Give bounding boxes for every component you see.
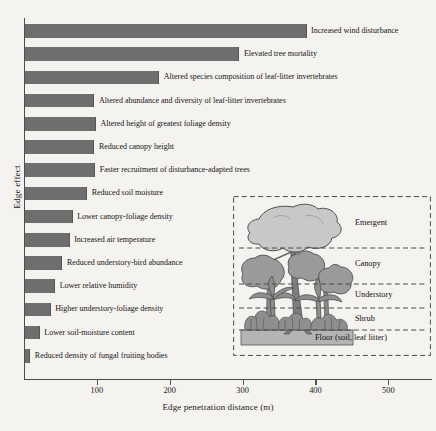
bar [25,233,70,247]
bar-row: Lower relative humidity [25,279,137,293]
x-tick-mark [170,380,171,385]
bar-row: Reduced canopy height [25,140,174,154]
x-tick-mark [315,380,316,385]
bar-row: Reduced understory-bird abundance [25,256,183,270]
edge-effect-bar-chart: Edge effect Increased wind disturbanceEl… [0,0,436,431]
bar [25,210,73,224]
bar-label: Reduced soil moisture [92,189,163,197]
bar-label: Elevated tree mortality [244,50,317,58]
x-tick-mark [97,380,98,385]
bar [25,256,62,270]
bar-row: Lower soil-moisture content [25,326,135,340]
bar [25,279,55,293]
bar-row: Higher understory-foliage density [25,302,163,316]
bar-row: Increased air temperature [25,233,155,247]
bar-row: Elevated tree mortality [25,47,317,61]
x-tick-label: 100 [91,386,104,395]
bar-label: Increased wind disturbance [311,27,398,35]
bar [25,303,51,317]
bar-row: Altered abundance and diversity of leaf-… [25,94,286,108]
bar-label: Reduced density of fungal fruiting bodie… [35,352,168,360]
bar-label: Altered species composition of leaf-litt… [164,73,338,81]
bar [25,47,239,61]
bar [25,326,40,340]
x-axis-title: Edge penetration distance (m) [0,402,436,412]
bar-row: Altered species composition of leaf-litt… [25,70,338,84]
bar [25,71,159,85]
bar-row: Reduced soil moisture [25,186,163,200]
bar [25,349,30,363]
bar-label: Reduced canopy height [99,143,174,151]
bar-label: Lower relative humidity [60,282,138,290]
bar-label: Increased air temperature [74,236,155,244]
x-tick-label: 300 [236,386,249,395]
bar-label: Altered abundance and diversity of leaf-… [99,97,286,105]
bar [25,117,96,131]
forest-illustration [233,196,431,356]
bar-row: Reduced density of fungal fruiting bodie… [25,349,168,363]
bar-label: Lower canopy-foliage density [77,213,173,221]
bar-label: Reduced understory-bird abundance [67,259,183,267]
bar-row: Lower canopy-foliage density [25,210,173,224]
bar-row: Altered height of greatest foliage densi… [25,117,231,131]
x-tick-mark [388,380,389,385]
strata-label-floor: Floor (soil, leaf litter) [315,333,387,342]
bar-row: Faster recruitment of disturbance-adapte… [25,163,250,177]
bar-label: Higher understory-foliage density [55,305,163,313]
strata-label-emergent: Emergent [355,218,387,227]
x-tick-label: 500 [382,386,395,395]
x-tick-mark [243,380,244,385]
strata-label-understory: Understory [355,290,392,299]
x-tick-label: 200 [163,386,176,395]
bar-label: Faster recruitment of disturbance-adapte… [100,166,250,174]
bar [25,187,87,201]
x-tick-label: 400 [309,386,322,395]
bar-row: Increased wind disturbance [25,24,398,38]
strata-label-shrub: Shrub [355,314,375,323]
bar-label: Lower soil-moisture content [44,329,134,337]
bar-label: Altered height of greatest foliage densi… [100,120,230,128]
strata-label-canopy: Canopy [355,259,381,268]
bar [25,163,95,177]
bar [25,94,94,108]
bar [25,140,94,154]
bar [25,24,307,38]
y-axis-title: Edge effect [12,132,22,242]
x-axis-line [24,379,432,380]
forest-stratification-diagram: Emergent Canopy Understory Shrub Floor (… [233,196,431,356]
